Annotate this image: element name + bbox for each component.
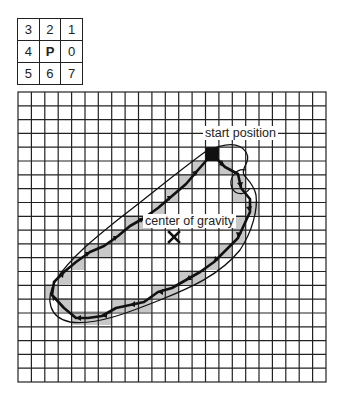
start-position-marker — [206, 147, 219, 161]
start-position-label: start position — [203, 126, 278, 140]
pixel-grid — [18, 92, 326, 382]
chain-code-diagram — [0, 0, 345, 398]
center-of-gravity-marker — [169, 232, 179, 242]
center-of-gravity-label: center of gravity — [143, 214, 236, 228]
